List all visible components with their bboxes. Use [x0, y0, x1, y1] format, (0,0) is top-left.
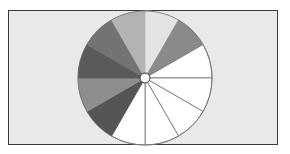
- segmented-pie-wheel: [0, 0, 290, 154]
- center-hub: [140, 73, 150, 83]
